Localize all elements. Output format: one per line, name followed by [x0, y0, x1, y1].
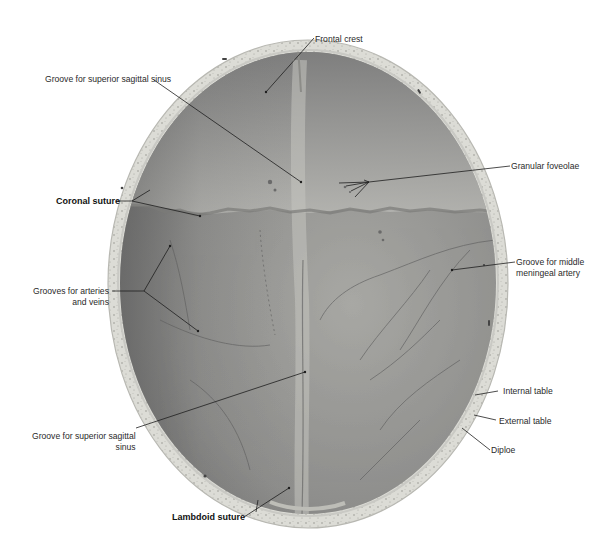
label-frontal-crest: Frontal crest — [315, 34, 363, 45]
label-line: Groove for superior sagittal — [32, 431, 136, 442]
label-line: sinus — [32, 442, 136, 453]
label-grooves-arteries-veins: Grooves for arteries and veins — [33, 286, 109, 307]
label-internal-table: Internal table — [503, 386, 553, 397]
label-groove-superior-sagittal-sinus-bottom: Groove for superior sagittal sinus — [32, 431, 136, 452]
label-coronal-suture: Coronal suture — [56, 196, 120, 207]
label-groove-middle-meningeal-artery: Groove for middle meningeal artery — [516, 257, 584, 278]
label-line: Groove for middle — [516, 257, 584, 268]
label-groove-superior-sagittal-sinus-top: Groove for superior sagittal sinus — [45, 74, 171, 85]
label-line: Grooves for arteries — [33, 286, 109, 297]
label-diploe: Diploe — [491, 445, 515, 456]
label-lambdoid-suture: Lambdoid suture — [172, 512, 245, 523]
label-line: and veins — [33, 297, 109, 308]
label-granular-foveolae: Granular foveolae — [511, 161, 579, 172]
label-line: meningeal artery — [516, 268, 584, 279]
label-external-table: External table — [499, 416, 552, 427]
